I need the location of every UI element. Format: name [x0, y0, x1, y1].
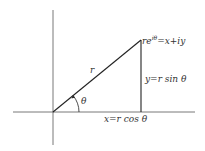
vertical-component-label: y=r sin θ [145, 74, 186, 84]
angle-label: θ [81, 96, 86, 106]
angle-arc [73, 96, 79, 113]
radius-line [53, 40, 141, 112]
horizontal-component-label: x=r cos θ [104, 114, 147, 124]
radius-label: r [90, 65, 94, 75]
point-label: reiθ=x+iy [142, 34, 185, 46]
